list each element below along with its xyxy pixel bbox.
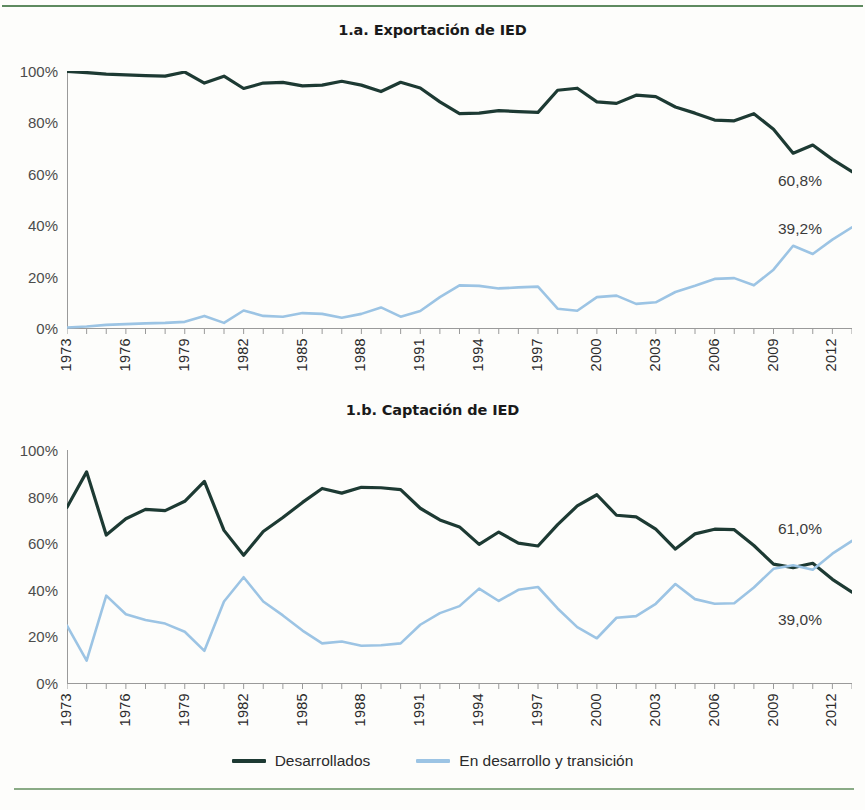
x-tick-label: 1994 <box>470 693 486 726</box>
legend-line-icon-desarrollados <box>232 759 266 763</box>
x-tick-label: 1976 <box>117 338 133 371</box>
y-tick-label: 40% <box>0 581 58 598</box>
y-tick-label: 100% <box>0 442 58 459</box>
x-tick-label: 2012 <box>823 338 839 371</box>
x-tick-label: 1997 <box>529 338 545 371</box>
data-label-endesarrollo-b: 61,0% <box>778 520 822 538</box>
x-tick-label: 1988 <box>352 338 368 371</box>
chart-title-exportacion: 1.a. Exportación de IED <box>0 22 865 38</box>
legend-line-icon-endesarrollo <box>416 759 450 763</box>
series-line-desarrollados <box>67 472 852 592</box>
y-tick-label: 80% <box>0 488 58 505</box>
series-line-en-desarrollo-y-transici-n <box>67 227 852 327</box>
x-tick-label: 1979 <box>176 338 192 371</box>
x-tick-label: 1985 <box>294 693 310 726</box>
series-line-en-desarrollo-y-transici-n <box>67 541 852 661</box>
plot-area-captacion <box>67 450 852 683</box>
y-tick-label: 60% <box>0 535 58 552</box>
x-tick-label: 2003 <box>647 338 663 371</box>
y-tick-label: 0% <box>0 675 58 692</box>
x-tick-label: 2000 <box>588 338 604 371</box>
legend-item-desarrollados: Desarrollados <box>232 752 371 770</box>
x-tick-label: 1997 <box>529 693 545 726</box>
x-tick-label: 1979 <box>176 693 192 726</box>
x-tick-label: 1991 <box>411 693 427 726</box>
y-tick-label: 80% <box>0 114 58 131</box>
top-divider-rule <box>2 5 863 7</box>
y-tick-label: 60% <box>0 165 58 182</box>
x-tick-label: 1988 <box>352 693 368 726</box>
x-tick-label: 1973 <box>58 338 74 371</box>
x-tick-label: 1976 <box>117 693 133 726</box>
y-tick-label: 40% <box>0 217 58 234</box>
x-tick-label: 2012 <box>823 693 839 726</box>
data-label-endesarrollo-a: 39,2% <box>778 220 822 238</box>
bottom-divider-rule <box>14 788 854 790</box>
chart-title-captacion: 1.b. Captación de IED <box>0 402 865 418</box>
x-tick-label: 1973 <box>58 693 74 726</box>
legend-item-endesarrollo: En desarrollo y transición <box>416 752 633 770</box>
x-tick-label: 1991 <box>411 338 427 371</box>
legend-label-desarrollados: Desarrollados <box>275 752 371 770</box>
data-label-desarrollados-a: 60,8% <box>778 172 822 190</box>
data-label-desarrollados-b: 39,0% <box>778 611 822 629</box>
x-tick-label: 2006 <box>706 693 722 726</box>
figure-page: 1.a. Exportación de IED 100%80%60%40%20%… <box>0 0 865 810</box>
x-tick-label: 2009 <box>765 693 781 726</box>
series-line-desarrollados <box>67 72 852 172</box>
x-tick-label: 2003 <box>647 693 663 726</box>
y-tick-label: 20% <box>0 628 58 645</box>
x-tick-label: 1985 <box>294 338 310 371</box>
x-tick-label: 1982 <box>235 693 251 726</box>
y-tick-label: 0% <box>0 320 58 337</box>
plot-area-exportacion <box>67 71 852 328</box>
y-tick-label: 100% <box>0 63 58 80</box>
chart-panel-captacion: 1.b. Captación de IED 100%80%60%40%20%0%… <box>0 395 865 745</box>
x-tick-label: 1994 <box>470 338 486 371</box>
chart-legend: Desarrollados En desarrollo y transición <box>0 752 865 770</box>
x-tick-label: 1982 <box>235 338 251 371</box>
chart-panel-exportacion: 1.a. Exportación de IED 100%80%60%40%20%… <box>0 14 865 384</box>
x-tick-label: 2000 <box>588 693 604 726</box>
legend-label-endesarrollo: En desarrollo y transición <box>459 752 633 770</box>
x-tick-label: 2006 <box>706 338 722 371</box>
x-tick-label: 2009 <box>765 338 781 371</box>
y-tick-label: 20% <box>0 268 58 285</box>
